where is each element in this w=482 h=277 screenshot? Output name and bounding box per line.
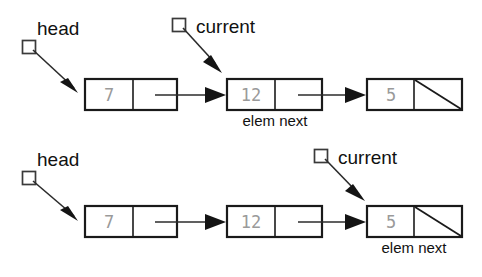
elem-next-caption-top: elem next [242, 112, 308, 129]
head-arrowhead-bottom [60, 206, 78, 221]
head-arrowhead-top [60, 78, 78, 93]
row-bottom: head current 7 12 [23, 147, 463, 256]
head-label-bottom: head [37, 149, 79, 170]
node-top-2-value: 12 [241, 85, 261, 105]
pointer-current-bottom: current [315, 147, 398, 201]
node-top-1-value: 7 [104, 85, 114, 105]
current-arrowhead-top [203, 55, 222, 73]
pointer-head-bottom: head [23, 149, 80, 221]
link-bottom-2-3-arrowhead [345, 214, 366, 230]
link-top-2-3-arrowhead [345, 87, 366, 103]
head-pointer-box-bottom [23, 172, 36, 185]
link-bottom-1-2-arrowhead [205, 214, 226, 230]
current-arrowhead-bottom [345, 184, 365, 201]
node-bottom-2-value: 12 [241, 212, 261, 232]
node-bottom-3-value: 5 [386, 212, 396, 232]
node-top-3: 5 [367, 79, 462, 110]
current-label-top: current [196, 16, 256, 37]
node-bottom-1-value: 7 [104, 212, 114, 232]
node-bottom-3: 5 [367, 206, 462, 237]
row-top: head current 7 12 e [23, 16, 463, 129]
current-label-bottom: current [338, 147, 398, 168]
node-top-3-value: 5 [386, 85, 396, 105]
pointer-current-top: current [173, 16, 256, 73]
link-top-1-2-arrowhead [205, 87, 226, 103]
pointer-head-top: head [23, 18, 80, 93]
linked-list-diagram: head current 7 12 e [0, 0, 482, 277]
elem-next-caption-bottom: elem next [381, 239, 447, 256]
head-label-top: head [37, 18, 79, 39]
